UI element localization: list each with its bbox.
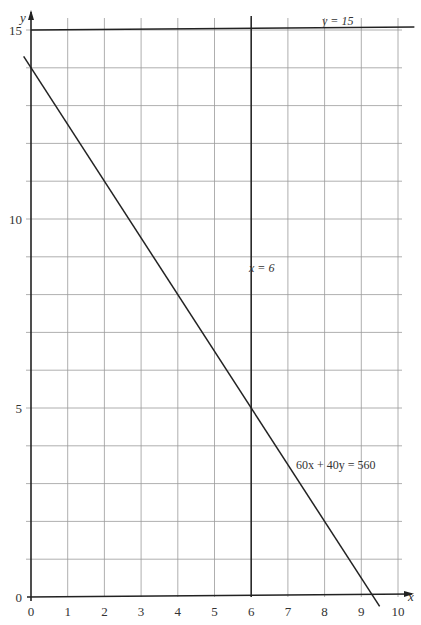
tick-labels: 012345678910051015 [9, 23, 405, 619]
grid-lines [26, 18, 402, 597]
series-line [24, 56, 380, 606]
x-tick-label: 7 [285, 604, 292, 619]
x-tick-label: 6 [248, 604, 255, 619]
x-tick-label: 0 [28, 604, 35, 619]
x-tick-label: 5 [211, 604, 218, 619]
y-axis-label: y [18, 10, 26, 25]
series-line [31, 27, 414, 30]
y-tick-label: 5 [16, 401, 23, 416]
x-tick-label: 3 [138, 604, 145, 619]
y-tick-label: 15 [9, 23, 22, 38]
x-tick-label: 4 [175, 604, 182, 619]
axes [27, 10, 414, 601]
annotation-x6: x = 6 [248, 261, 274, 275]
x-tick-label: 1 [64, 604, 71, 619]
x-tick-label: 10 [392, 604, 405, 619]
annotation-constraint: 60x + 40y = 560 [296, 458, 376, 472]
y-tick-label: 10 [9, 212, 22, 227]
chart-canvas: 012345678910051015 y x y = 15 x = 6 60x … [0, 0, 421, 625]
plot-lines [24, 16, 415, 606]
x-tick-label: 8 [321, 604, 328, 619]
x-axis-label: x [407, 589, 414, 604]
y-axis-arrow-icon [28, 10, 34, 20]
annotation-y15: y = 15 [321, 14, 353, 28]
x-tick-label: 2 [101, 604, 108, 619]
x-axis-line [27, 594, 412, 597]
y-tick-label: 0 [16, 590, 23, 605]
x-tick-label: 9 [358, 604, 365, 619]
